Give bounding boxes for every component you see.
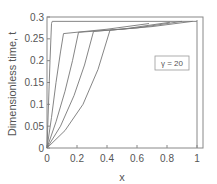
x-tick-label: 0.8	[160, 153, 174, 164]
x-tick-label: 0.2	[70, 153, 84, 164]
data-series	[47, 21, 197, 148]
x-tick-label: 0	[44, 153, 50, 164]
x-tick-label: 1	[194, 153, 200, 164]
series-line	[47, 21, 193, 148]
y-axis-ticks: 00.050.10.150.20.250.3	[25, 12, 50, 154]
legend-label: γ = 20	[161, 59, 184, 68]
plot-frame	[47, 17, 203, 148]
y-tick-label: 0.05	[25, 121, 45, 132]
y-tick-label: 0.2	[30, 55, 44, 66]
series-line	[47, 21, 182, 148]
legend-box: γ = 20	[155, 56, 189, 70]
series-line	[47, 24, 149, 148]
x-tick-label: 0.4	[100, 153, 114, 164]
series-line	[47, 21, 197, 148]
y-tick-label: 0.3	[30, 12, 44, 23]
chart: 00.050.10.150.20.250.3 00.20.40.60.81 γ …	[0, 0, 217, 184]
x-tick-label: 0.6	[130, 153, 144, 164]
y-tick-label: 0.15	[25, 77, 45, 88]
y-tick-label: 0	[38, 143, 44, 154]
x-axis-label: x	[119, 171, 125, 183]
y-tick-label: 0.25	[25, 33, 45, 44]
y-axis-label: Dimensionless time, t	[6, 32, 18, 137]
y-tick-label: 0.1	[30, 99, 44, 110]
